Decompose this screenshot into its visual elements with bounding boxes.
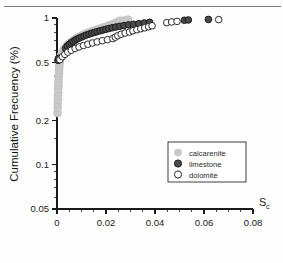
legend-marker-limestone xyxy=(174,160,181,167)
series-limestone xyxy=(55,16,212,63)
y-tick-label: 0.1 xyxy=(36,159,49,170)
x-tick-label: 0.04 xyxy=(146,217,165,228)
data-point-dolomite xyxy=(174,18,181,25)
y-tick-label: 0.2 xyxy=(36,115,49,126)
legend-marker-dolomite xyxy=(174,171,181,178)
legend-label-limestone: limestone xyxy=(189,160,222,169)
x-tick-label: 0.06 xyxy=(195,217,214,228)
legend-label-calcarenite: calcarenite xyxy=(189,149,226,158)
x-tick-label: 0 xyxy=(54,217,59,228)
y-tick-label: 1 xyxy=(44,12,49,23)
x-axis-title-subscript: c xyxy=(266,203,270,210)
legend: calcarenite limestone dolomite xyxy=(168,142,246,182)
y-tick-label: 0.5 xyxy=(36,57,49,68)
figure-root: 10.50.20.10.05 00.020.040.060.08 Cumulat… xyxy=(0,0,283,263)
legend-label-dolomite: dolomite xyxy=(189,171,218,180)
data-point-dolomite xyxy=(149,22,156,29)
data-point-limestone xyxy=(205,16,212,23)
x-tick-group: 00.020.040.060.08 xyxy=(54,209,262,228)
data-series-layer xyxy=(53,16,222,117)
data-point-limestone xyxy=(185,17,192,24)
data-point-dolomite xyxy=(215,16,222,23)
y-tick-label: 0.05 xyxy=(31,203,50,214)
y-tick-group: 10.50.20.10.05 xyxy=(31,12,58,214)
legend-marker-calcarenite xyxy=(174,149,181,156)
x-tick-label: 0.02 xyxy=(97,217,116,228)
y-axis-title: Cumulative Frecuency (%) xyxy=(8,46,20,182)
x-tick-label: 0.08 xyxy=(244,217,263,228)
scatter-plot: 10.50.20.10.05 00.020.040.060.08 Cumulat… xyxy=(0,0,283,263)
